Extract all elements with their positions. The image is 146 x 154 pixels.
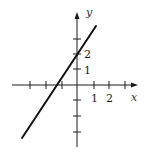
x-axis bbox=[12, 81, 138, 89]
y-axis-label: y bbox=[85, 6, 93, 19]
x-tick-label-1: 1 bbox=[91, 92, 98, 105]
y-axis bbox=[73, 12, 81, 147]
coordinate-plane: 1 2 1 2 x y bbox=[0, 0, 146, 154]
plot-line bbox=[22, 26, 96, 138]
y-axis-arrow-icon bbox=[75, 12, 80, 19]
y-tick-label-2: 2 bbox=[84, 48, 91, 61]
x-tick-label-2: 2 bbox=[106, 92, 113, 105]
y-tick-label-1: 1 bbox=[84, 64, 91, 77]
x-axis-arrow-icon bbox=[131, 83, 138, 88]
x-axis-label: x bbox=[131, 91, 138, 104]
